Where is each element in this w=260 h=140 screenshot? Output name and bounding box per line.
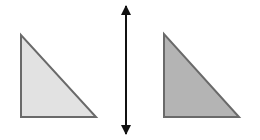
diagram-canvas xyxy=(0,0,260,140)
diagram-svg xyxy=(0,0,260,140)
right-triangle xyxy=(164,34,239,117)
left-triangle xyxy=(21,35,96,117)
